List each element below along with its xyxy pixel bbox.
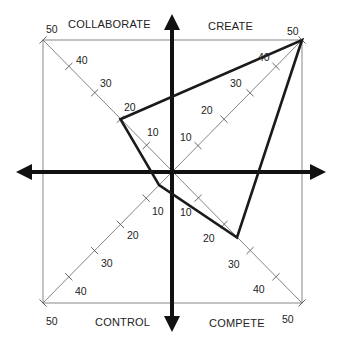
profile-polygon xyxy=(120,40,302,238)
arrow-left-icon xyxy=(16,164,32,180)
tick-create-30: 30 xyxy=(230,77,242,89)
quadrant-label-control: CONTROL xyxy=(95,316,150,328)
tick-collaborate-10: 10 xyxy=(147,126,159,138)
quadrant-label-compete: COMPETE xyxy=(209,317,265,329)
tick-compete-10: 10 xyxy=(180,206,192,218)
tick-collaborate-50: 50 xyxy=(46,23,58,35)
tick-control-50: 50 xyxy=(46,315,58,327)
quadrant-label-create: CREATE xyxy=(208,20,253,32)
tick-create-10: 10 xyxy=(180,131,192,143)
tick-collaborate-40: 40 xyxy=(76,54,88,66)
tick-compete-20: 20 xyxy=(203,232,215,244)
competing-values-diagram xyxy=(0,0,337,347)
tick-compete-30: 30 xyxy=(228,258,240,270)
tick-create-40: 40 xyxy=(258,51,270,63)
tick-collaborate-30: 30 xyxy=(100,77,112,89)
tick-control-30: 30 xyxy=(101,257,113,269)
tick-collaborate-20: 20 xyxy=(124,101,136,113)
tick-compete-50: 50 xyxy=(282,313,294,325)
arrow-up-icon xyxy=(164,14,180,30)
tick-create-50: 50 xyxy=(287,25,299,37)
tick-create-20: 20 xyxy=(201,104,213,116)
tick-control-10: 10 xyxy=(152,205,164,217)
arrow-right-icon xyxy=(310,164,326,180)
arrow-down-icon xyxy=(164,316,180,332)
tick-compete-40: 40 xyxy=(253,283,265,295)
quadrant-label-collaborate: COLLABORATE xyxy=(68,18,151,30)
tick-control-40: 40 xyxy=(75,285,87,297)
tick-control-20: 20 xyxy=(127,229,139,241)
